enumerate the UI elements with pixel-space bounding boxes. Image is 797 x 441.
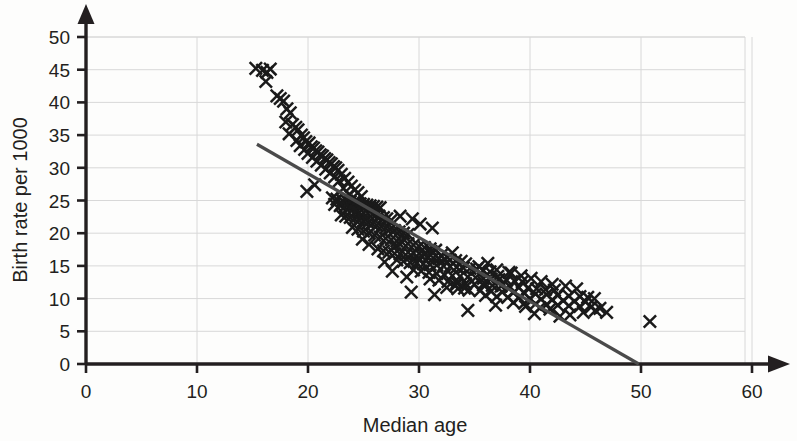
x-tick-label: 20 [297, 381, 318, 402]
x-tick-label: 10 [186, 381, 207, 402]
y-tick-label: 50 [49, 27, 70, 48]
x-tick-label: 40 [519, 381, 540, 402]
y-tick-label: 15 [49, 256, 70, 277]
y-tick-label: 0 [59, 354, 70, 375]
x-tick-label: 50 [630, 381, 651, 402]
chart-canvas: 051015202530354045500102030405060 Median… [0, 0, 797, 441]
chart-background [0, 0, 797, 441]
y-tick-label: 45 [49, 60, 70, 81]
x-tick-label: 30 [408, 381, 429, 402]
x-tick-label: 60 [741, 381, 762, 402]
y-tick-label: 5 [59, 321, 70, 342]
y-tick-label: 25 [49, 191, 70, 212]
x-tick-label: 0 [81, 381, 92, 402]
y-axis-title: Birth rate per 1000 [9, 117, 31, 283]
y-tick-label: 35 [49, 125, 70, 146]
x-axis-title: Median age [363, 414, 468, 436]
y-tick-label: 10 [49, 289, 70, 310]
y-tick-label: 40 [49, 92, 70, 113]
y-tick-label: 20 [49, 223, 70, 244]
y-tick-label: 30 [49, 158, 70, 179]
scatter-plot-figure: 051015202530354045500102030405060 Median… [0, 0, 797, 441]
